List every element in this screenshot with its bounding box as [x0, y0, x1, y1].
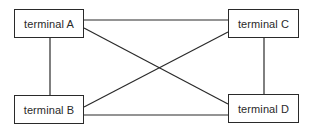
- node-label: terminal B: [24, 104, 75, 116]
- network-diagram: terminal A terminal B terminal C termina…: [0, 0, 312, 131]
- node-label: terminal A: [24, 18, 74, 30]
- node-label: terminal D: [238, 103, 289, 115]
- edge-a-d: [84, 28, 228, 104]
- edge-b-c: [84, 32, 228, 107]
- node-terminal-d: terminal D: [228, 94, 299, 123]
- node-terminal-b: terminal B: [14, 95, 84, 124]
- node-label: terminal C: [238, 18, 289, 30]
- node-terminal-c: terminal C: [228, 9, 299, 38]
- node-terminal-a: terminal A: [14, 9, 84, 38]
